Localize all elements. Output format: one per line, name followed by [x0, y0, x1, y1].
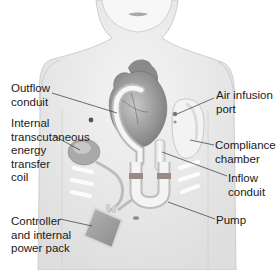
connector-band-right: [157, 173, 171, 179]
compliance-chamber-device: [172, 99, 204, 158]
label-pump: Pump: [216, 214, 246, 228]
label-internal-tet-coil: Internal transcutaneous energy transfer …: [11, 117, 90, 185]
label-controller-power-pack: Controller and internal power pack: [11, 215, 71, 256]
air-infusion-port-device: [173, 112, 177, 116]
label-inflow-conduit: Inflow conduit: [228, 172, 265, 199]
connector-band-left: [129, 173, 143, 179]
label-air-infusion-port: Air infusion port: [216, 89, 273, 116]
label-outflow-conduit: Outflow conduit: [11, 82, 50, 109]
label-compliance-chamber: Compliance chamber: [215, 139, 276, 166]
diagram-canvas: Outflow conduit Internal transcutaneous …: [0, 0, 276, 270]
navel: [133, 216, 139, 220]
